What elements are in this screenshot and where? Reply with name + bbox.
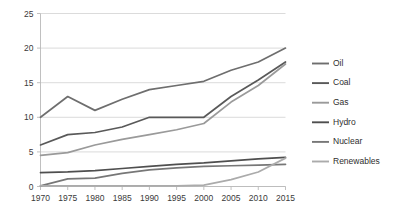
- x-tick-label-1970: 1970: [31, 193, 50, 203]
- y-tick-label-25: 25: [24, 9, 34, 19]
- series-line-gas: [41, 64, 286, 155]
- x-tick-label-1990: 1990: [140, 193, 159, 203]
- x-tick-label-2010: 2010: [249, 193, 268, 203]
- x-tick-label-1980: 1980: [85, 193, 104, 203]
- legend-label-coal: Coal: [333, 77, 351, 87]
- legend-label-hydro: Hydro: [333, 117, 356, 127]
- x-tick-label-1995: 1995: [167, 193, 186, 203]
- x-axis-tick-labels: 1970197519801985199019952000200520102015: [31, 193, 295, 203]
- legend-label-renewables: Renewables: [333, 156, 380, 166]
- x-tick-label-2000: 2000: [194, 193, 213, 203]
- x-tick-label-2015: 2015: [276, 193, 295, 203]
- x-tick-label-2005: 2005: [222, 193, 241, 203]
- legend: OilCoalGasHydroNuclearRenewables: [312, 58, 380, 166]
- x-tick-label-1985: 1985: [113, 193, 132, 203]
- y-tick-label-10: 10: [24, 112, 34, 122]
- axes: [37, 14, 286, 191]
- x-tick-label-1975: 1975: [58, 193, 77, 203]
- y-tick-label-20: 20: [24, 43, 34, 53]
- y-axis-tick-labels: 0510152025: [24, 9, 34, 192]
- legend-label-gas: Gas: [333, 97, 349, 107]
- line-chart: 0510152025 19701975198019851990199520002…: [0, 0, 393, 217]
- legend-label-oil: Oil: [333, 58, 344, 68]
- y-tick-label-15: 15: [24, 78, 34, 88]
- legend-label-nuclear: Nuclear: [333, 136, 362, 146]
- y-tick-label-0: 0: [29, 182, 34, 192]
- gridlines: [41, 14, 286, 187]
- y-tick-label-5: 5: [29, 147, 34, 157]
- chart-canvas: 0510152025 19701975198019851990199520002…: [0, 0, 393, 217]
